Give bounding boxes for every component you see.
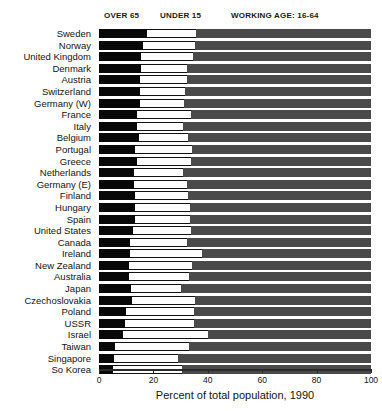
chart-row [99, 318, 371, 330]
bar-segment-working-age [196, 29, 371, 38]
plot-area [99, 28, 371, 368]
bar-segment-working-age [194, 307, 371, 316]
bar-segment-working-age [191, 226, 371, 235]
stacked-bar [99, 145, 371, 154]
bar-segment-over-65 [99, 330, 123, 339]
stacked-bar [99, 238, 371, 247]
bar-segment-under-15 [140, 75, 187, 84]
bar-segment-under-15 [137, 110, 191, 119]
bar-segment-under-15 [135, 191, 188, 200]
bar-segment-working-age [188, 191, 371, 200]
chart-row [99, 144, 371, 156]
x-tick-mark [371, 369, 372, 373]
chart-row [99, 260, 371, 272]
stacked-bar [99, 157, 371, 166]
stacked-bar [99, 354, 371, 363]
country-label: Switzerland [0, 86, 95, 98]
bar-segment-under-15 [129, 261, 192, 270]
stacked-bar [99, 168, 371, 177]
bar-segment-working-age [189, 342, 371, 351]
bar-segment-over-65 [99, 238, 130, 247]
country-label: Finland [0, 190, 95, 202]
x-axis-line [99, 369, 371, 371]
country-label: Ireland [0, 248, 95, 260]
bar-segment-working-age [184, 99, 371, 108]
chart-row [99, 51, 371, 63]
bar-segment-over-65 [99, 249, 130, 258]
chart-row [99, 329, 371, 341]
country-label: Norway [0, 40, 95, 52]
chart-row [99, 121, 371, 133]
bar-segment-under-15 [137, 157, 191, 166]
country-label: Italy [0, 121, 95, 133]
country-label: Spain [0, 214, 95, 226]
bar-segment-over-65 [99, 168, 134, 177]
country-label: Czechoslovakia [0, 295, 95, 307]
bar-segment-under-15 [132, 296, 195, 305]
x-axis-title: Percent of total population, 1990 [99, 389, 371, 401]
bar-segment-working-age [190, 203, 371, 212]
country-label: Hungary [0, 202, 95, 214]
bar-segment-working-age [189, 272, 371, 281]
bar-segment-under-15 [123, 330, 207, 339]
stacked-bar [99, 29, 371, 38]
country-axis-labels: SwedenNorwayUnited KingdomDenmarkAustria… [0, 28, 95, 368]
x-tick-mark [317, 369, 318, 373]
bar-segment-over-65 [99, 157, 137, 166]
x-tick-label: 0 [97, 375, 102, 385]
chart-row [99, 202, 371, 214]
bar-segment-working-age [187, 180, 371, 189]
bar-segment-under-15 [134, 168, 184, 177]
bar-segment-over-65 [99, 180, 134, 189]
bar-segment-under-15 [125, 319, 194, 328]
stacked-bar [99, 215, 371, 224]
bar-segment-under-15 [135, 145, 192, 154]
stacked-bar [99, 52, 371, 61]
bar-segment-under-15 [140, 87, 186, 96]
bar-segment-working-age [208, 330, 371, 339]
country-label: Portugal [0, 144, 95, 156]
stacked-bar [99, 296, 371, 305]
x-tick-label: 60 [257, 375, 266, 385]
country-label: Netherlands [0, 167, 95, 179]
bar-segment-working-age [183, 122, 371, 131]
x-tick-mark [99, 369, 100, 373]
country-label: Germany (W) [0, 98, 95, 110]
x-tick-mark [153, 369, 154, 373]
bar-segment-under-15 [139, 133, 188, 142]
chart-row [99, 109, 371, 121]
chart-row [99, 74, 371, 86]
legend-label-working-age: WORKING AGE: 16-64 [231, 11, 319, 20]
chart-row [99, 40, 371, 52]
chart-row [99, 190, 371, 202]
x-tick-label: 40 [203, 375, 212, 385]
country-label: Sweden [0, 28, 95, 40]
stacked-bar [99, 249, 371, 258]
bar-segment-working-age [191, 157, 371, 166]
bar-segment-under-15 [147, 29, 195, 38]
chart-row [99, 306, 371, 318]
country-label: United Kingdom [0, 51, 95, 63]
stacked-bar [99, 87, 371, 96]
bar-segment-under-15 [143, 41, 195, 50]
bar-segment-working-age [187, 64, 371, 73]
bar-segment-under-15 [130, 238, 187, 247]
stacked-bar [99, 41, 371, 50]
bar-segment-over-65 [99, 215, 135, 224]
chart-row [99, 167, 371, 179]
bar-segment-over-65 [99, 261, 129, 270]
stacked-bar [99, 272, 371, 281]
chart-legend: OVER 65 UNDER 15 WORKING AGE: 16-64 [0, 11, 382, 23]
chart-row [99, 156, 371, 168]
country-label: Poland [0, 306, 95, 318]
bar-segment-working-age [183, 168, 371, 177]
stacked-bar [99, 284, 371, 293]
stacked-bar [99, 64, 371, 73]
chart-row [99, 63, 371, 75]
bar-segment-working-age [187, 238, 371, 247]
bar-segment-over-65 [99, 203, 135, 212]
bar-segment-under-15 [135, 203, 190, 212]
country-label: Austria [0, 74, 95, 86]
stacked-bar [99, 203, 371, 212]
chart-row [99, 86, 371, 98]
